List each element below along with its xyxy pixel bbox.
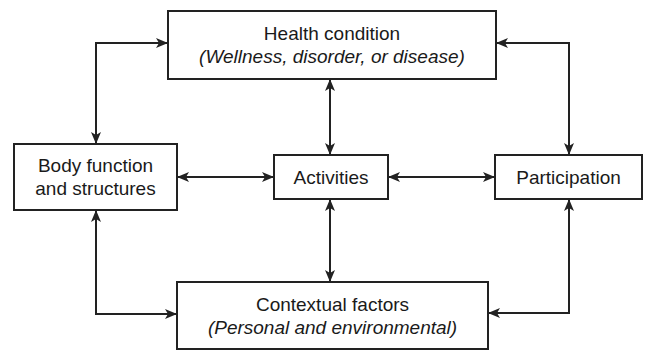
node-activities: Activities (273, 154, 389, 200)
node-participation: Participation (494, 154, 643, 200)
health-title: Health condition (264, 22, 400, 45)
node-health-condition: Health condition (Wellness, disorder, or… (167, 10, 497, 80)
contextual-subtitle: (Personal and environmental) (208, 316, 457, 339)
contextual-title: Contextual factors (256, 293, 409, 316)
node-body-function: Body function and structures (13, 143, 178, 211)
arrow-health-body (96, 43, 167, 143)
body-line2: and structures (35, 177, 155, 200)
health-subtitle: (Wellness, disorder, or disease) (199, 45, 465, 68)
activities-title: Activities (294, 166, 369, 189)
node-contextual-factors: Contextual factors (Personal and environ… (176, 281, 489, 350)
participation-title: Participation (516, 166, 621, 189)
arrow-body-contextual (96, 211, 176, 314)
arrow-health-participation (497, 43, 569, 154)
arrow-participation-contextual (489, 200, 569, 313)
body-line1: Body function (38, 154, 153, 177)
